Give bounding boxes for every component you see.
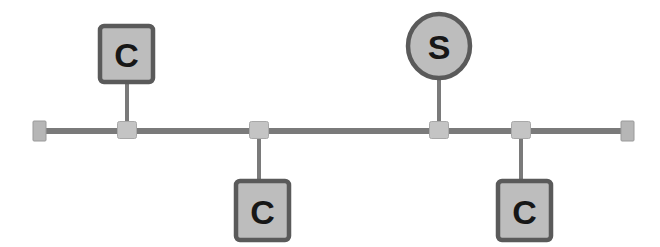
bus-tap-1 bbox=[118, 122, 137, 139]
server-node[interactable]: S bbox=[408, 14, 470, 78]
left-terminator bbox=[33, 121, 46, 141]
client-node-top-left[interactable]: C bbox=[100, 26, 153, 82]
client-node-bottom-right-label: C bbox=[512, 193, 537, 231]
client-node-bottom-right[interactable]: C bbox=[498, 181, 551, 240]
right-terminator bbox=[621, 121, 634, 141]
bus-topology-diagram: CCSC bbox=[0, 0, 660, 247]
bus-tap-4 bbox=[512, 122, 531, 139]
bus-tap-2 bbox=[250, 122, 269, 139]
diagram-svg-root: CCSC bbox=[0, 0, 660, 247]
nodes-layer: CCSC bbox=[100, 14, 551, 240]
bus-tap-3 bbox=[430, 122, 449, 139]
client-node-top-left-label: C bbox=[114, 36, 139, 74]
client-node-bottom-left-label: C bbox=[250, 193, 275, 231]
client-node-bottom-left[interactable]: C bbox=[236, 181, 289, 240]
server-node-label: S bbox=[428, 28, 451, 66]
